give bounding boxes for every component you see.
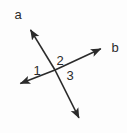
angle-label-1: 1 [34, 64, 41, 77]
line-label-a: a [15, 8, 22, 21]
angle-label-2: 2 [57, 54, 64, 67]
geometry-figure: a b 1 2 3 [0, 0, 127, 133]
line-label-b: b [112, 41, 119, 54]
angle-label-3: 3 [67, 69, 74, 82]
